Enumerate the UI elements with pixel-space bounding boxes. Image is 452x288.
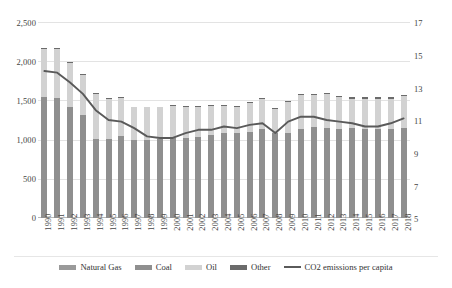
bar-column[interactable] — [89, 22, 102, 218]
bar-segment-oil — [401, 96, 407, 127]
stacked-bar[interactable] — [298, 94, 304, 218]
bar-column[interactable] — [397, 22, 410, 218]
legend-label-natural-gas: Natural Gas — [80, 262, 121, 272]
bar-column[interactable] — [269, 22, 282, 218]
stacked-bar[interactable] — [401, 95, 407, 218]
y-axis-tick-left: 0 — [2, 213, 36, 223]
x-axis-tick: 1993 — [76, 220, 89, 254]
bar-column[interactable] — [115, 22, 128, 218]
stacked-bar[interactable] — [80, 74, 86, 218]
legend-swatch-oil — [185, 265, 202, 270]
bar-segment-coal — [388, 129, 394, 218]
stacked-bar[interactable] — [311, 94, 317, 218]
legend-item-co2-per-capita[interactable]: CO2 emissions per capita — [284, 262, 393, 272]
bar-segment-coal — [157, 139, 163, 218]
bar-column[interactable] — [192, 22, 205, 218]
stacked-bar[interactable] — [118, 97, 124, 218]
bar-column[interactable] — [359, 22, 372, 218]
y-axis-tick-right: 5 — [414, 214, 444, 224]
x-axis-tick: 2014 — [346, 220, 359, 254]
stacked-bar[interactable] — [183, 106, 189, 218]
stacked-bar[interactable] — [362, 97, 368, 218]
y-axis-tick-left: 1,500 — [2, 96, 36, 106]
x-axis-tick: 2018 — [397, 220, 410, 254]
stacked-bar[interactable] — [324, 93, 330, 218]
legend-swatch-coal — [135, 265, 152, 270]
bar-column[interactable] — [256, 22, 269, 218]
bar-column[interactable] — [295, 22, 308, 218]
stacked-bar[interactable] — [247, 102, 253, 218]
x-axis-tick: 1998 — [141, 220, 154, 254]
bar-column[interactable] — [128, 22, 141, 218]
stacked-bar[interactable] — [388, 97, 394, 218]
bar-column[interactable] — [76, 22, 89, 218]
stacked-bar[interactable] — [259, 98, 265, 218]
bar-column[interactable] — [38, 22, 51, 218]
bar-column[interactable] — [307, 22, 320, 218]
bar-column[interactable] — [179, 22, 192, 218]
bar-segment-oil — [336, 97, 342, 128]
bar-column[interactable] — [346, 22, 359, 218]
bar-segment-oil — [170, 106, 176, 138]
stacked-bar[interactable] — [131, 107, 137, 218]
bar-segment-coal — [285, 133, 291, 218]
x-axis-tick: 2008 — [269, 220, 282, 254]
bar-column[interactable] — [372, 22, 385, 218]
bar-column[interactable] — [141, 22, 154, 218]
stacked-bar[interactable] — [195, 106, 201, 218]
stacked-bar[interactable] — [157, 107, 163, 218]
x-axis-tick: 2005 — [230, 220, 243, 254]
bar-column[interactable] — [153, 22, 166, 218]
x-axis-tick: 2016 — [372, 220, 385, 254]
legend-swatch-co2-per-capita — [284, 266, 301, 268]
stacked-bar[interactable] — [106, 98, 112, 218]
bar-column[interactable] — [333, 22, 346, 218]
legend-item-other[interactable]: Other — [230, 262, 271, 272]
x-axis-tick: 2013 — [333, 220, 346, 254]
bar-column[interactable] — [243, 22, 256, 218]
legend-item-natural-gas[interactable]: Natural Gas — [59, 262, 121, 272]
y-axis-tick-right: 7 — [414, 182, 444, 192]
bar-segment-oil — [41, 49, 47, 98]
bar-column[interactable] — [282, 22, 295, 218]
bar-segment-coal — [41, 97, 47, 218]
stacked-bar[interactable] — [41, 48, 47, 218]
bar-column[interactable] — [384, 22, 397, 218]
combo-chart: 2,500 2,000 1,500 1,000 500 0 17 15 13 1… — [0, 0, 452, 288]
bar-segment-coal — [67, 107, 73, 218]
x-axis-tick: 2011 — [307, 220, 320, 254]
bar-column[interactable] — [51, 22, 64, 218]
stacked-bar[interactable] — [234, 106, 240, 218]
stacked-bar[interactable] — [285, 101, 291, 218]
bar-column[interactable] — [64, 22, 77, 218]
legend-item-coal[interactable]: Coal — [135, 262, 172, 272]
stacked-bar[interactable] — [272, 108, 278, 218]
x-axis-tick: 1999 — [153, 220, 166, 254]
bar-column[interactable] — [320, 22, 333, 218]
stacked-bar[interactable] — [54, 48, 60, 218]
bar-segment-oil — [208, 106, 214, 135]
bar-segment-coal — [54, 98, 60, 218]
y-axis-tick-right: 9 — [414, 149, 444, 159]
bar-column[interactable] — [218, 22, 231, 218]
stacked-bar[interactable] — [170, 105, 176, 218]
stacked-bar[interactable] — [93, 93, 99, 218]
stacked-bar[interactable] — [336, 96, 342, 218]
stacked-bar[interactable] — [375, 97, 381, 218]
stacked-bar[interactable] — [349, 97, 355, 218]
bar-column[interactable] — [205, 22, 218, 218]
x-axis-tick: 1996 — [115, 220, 128, 254]
x-axis-tick: 2010 — [295, 220, 308, 254]
stacked-bar[interactable] — [208, 105, 214, 218]
bar-column[interactable] — [166, 22, 179, 218]
bar-segment-coal — [93, 139, 99, 218]
stacked-bar[interactable] — [67, 62, 73, 218]
stacked-bar[interactable] — [144, 107, 150, 218]
bar-segment-oil — [324, 94, 330, 128]
bar-column[interactable] — [102, 22, 115, 218]
bar-segment-oil — [234, 107, 240, 133]
stacked-bar[interactable] — [221, 105, 227, 218]
legend-item-oil[interactable]: Oil — [185, 262, 217, 272]
bar-column[interactable] — [230, 22, 243, 218]
plot-area — [38, 22, 410, 218]
